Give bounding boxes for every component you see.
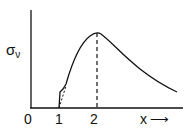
right-arrow-icon: ⟶ — [150, 113, 169, 126]
x-axis-label: x ⟶ — [140, 112, 169, 126]
sigma-curve — [59, 33, 177, 108]
y-axis-subscript: ν — [15, 49, 20, 60]
x-tick-0: 0 — [24, 112, 32, 126]
x-tick-2: 2 — [90, 112, 98, 126]
x-tick-1: 1 — [55, 112, 63, 126]
y-axis-symbol: σ — [6, 41, 15, 58]
y-axis-label: σν — [6, 42, 20, 60]
x-axis-symbol: x — [140, 112, 147, 126]
